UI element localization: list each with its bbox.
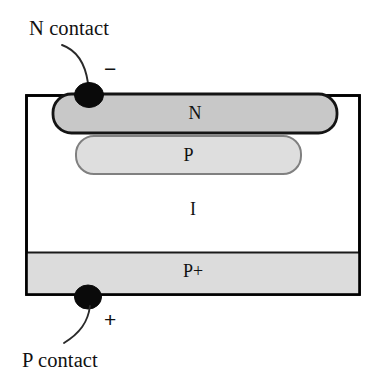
p-contact-label: P contact bbox=[22, 350, 98, 371]
diagram-canvas: N contact P contact − + N P I P+ bbox=[0, 0, 382, 375]
device-cross-section-diagram bbox=[0, 0, 382, 375]
plus-polarity-label: + bbox=[104, 309, 116, 330]
n-region-label: N bbox=[52, 104, 338, 122]
p-contact-dot bbox=[75, 285, 102, 309]
i-region-label: I bbox=[26, 200, 360, 218]
p-plus-region-label: P+ bbox=[26, 262, 360, 280]
n-contact-leader-line bbox=[62, 45, 88, 83]
minus-polarity-label: − bbox=[104, 58, 116, 79]
p-contact-leader-line bbox=[64, 306, 90, 343]
p-region-label: P bbox=[75, 146, 302, 164]
n-contact-label: N contact bbox=[29, 18, 109, 39]
